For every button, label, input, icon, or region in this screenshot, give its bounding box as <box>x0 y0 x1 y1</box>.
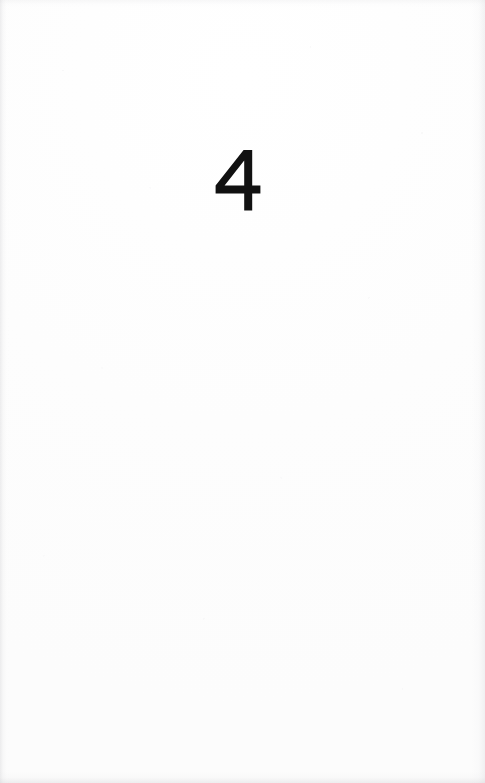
scan-grain <box>0 0 485 783</box>
scanned-page <box>0 0 485 783</box>
scan-edge-left <box>0 0 9 783</box>
chapter-number-container <box>0 150 485 216</box>
scan-edge-right <box>471 0 485 783</box>
chapter-number <box>215 150 271 216</box>
scan-edge-top <box>0 0 485 8</box>
scan-edge-bottom <box>0 771 485 783</box>
paper-texture <box>0 0 485 783</box>
